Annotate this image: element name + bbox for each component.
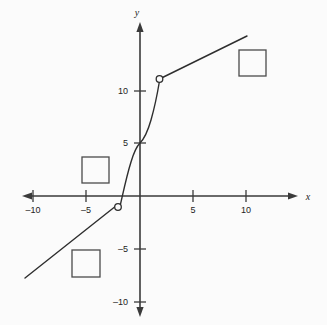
answer-box-middle-left[interactable]	[82, 157, 109, 183]
x-tick-label-10: 10	[241, 205, 251, 215]
y-tick-label--5: –5	[118, 244, 128, 254]
open-point-upper	[156, 76, 163, 83]
right-ray-segment	[163, 36, 248, 78]
x-tick-label--10: –10	[25, 205, 40, 215]
y-axis	[136, 22, 143, 317]
graph-screenshot: –10 –5 5 10 10 5 –5 –10 x y	[0, 0, 327, 325]
x-tick-label--5: –5	[81, 205, 91, 215]
y-tick-label-5: 5	[123, 138, 128, 148]
open-point-lower	[115, 204, 122, 211]
x-axis	[22, 192, 298, 199]
y-axis-label: y	[134, 7, 140, 18]
answer-box-lower-left[interactable]	[72, 250, 100, 277]
x-tick-label-5: 5	[190, 205, 195, 215]
coordinate-plane: –10 –5 5 10 10 5 –5 –10 x y	[0, 0, 327, 325]
y-tick-label-10: 10	[118, 86, 128, 96]
answer-box-upper-right[interactable]	[239, 50, 266, 76]
x-axis-label: x	[305, 191, 311, 202]
left-ray-segment	[25, 206, 117, 279]
y-tick-label--10: –10	[113, 297, 128, 307]
